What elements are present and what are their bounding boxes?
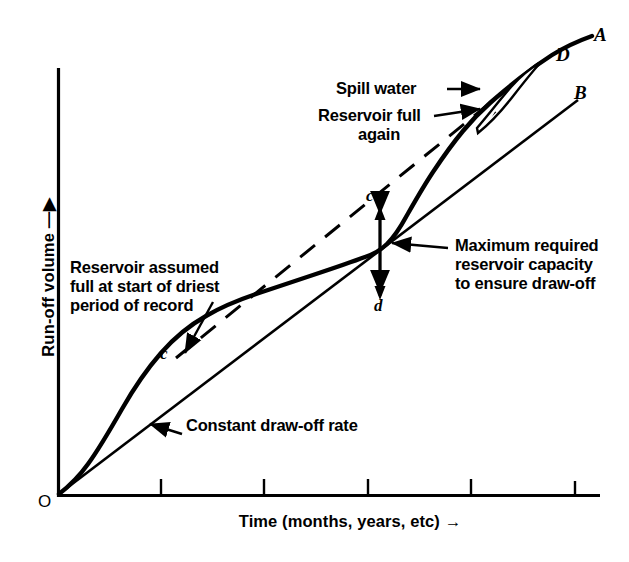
annotation-reservoir-full-again-line2: again: [318, 125, 440, 144]
y-axis-title: Run-off volume —▶: [39, 168, 58, 388]
annotation-max-capacity: Maximum required reservoir capacity to e…: [455, 236, 599, 292]
annotation-reservoir-full-again: Reservoir full again: [318, 106, 440, 144]
annotation-max-capacity-line2: reservoir capacity: [455, 255, 599, 274]
annotation-reservoir-assumed-line3: period of record: [70, 296, 219, 315]
curve-label-c-upper: c: [366, 186, 374, 206]
annotation-reservoir-assumed-full: Reservoir assumed full at start of dries…: [70, 258, 219, 314]
reservoir-full-leader: [434, 109, 480, 116]
mass-curve-figure: Run-off volume —▶ Time (months, years, e…: [0, 0, 629, 562]
annotation-reservoir-assumed-line2: full at start of driest: [70, 277, 219, 296]
x-axis-title: Time (months, years, etc) →: [150, 512, 550, 531]
annotation-reservoir-assumed-line1: Reservoir assumed: [70, 258, 219, 277]
origin-label: O: [38, 492, 51, 512]
curve-label-c-lower: c: [160, 344, 168, 364]
x-axis-ticks: [161, 479, 575, 495]
max-capacity-leader: [392, 243, 448, 248]
constant-draw-off-leader: [150, 424, 182, 434]
curve-label-d-lower: d: [374, 296, 383, 316]
annotation-constant-draw-off-rate: Constant draw-off rate: [186, 416, 358, 434]
annotation-max-capacity-line3: to ensure draw-off: [455, 274, 599, 293]
curve-label-b: B: [574, 82, 587, 104]
annotation-spill-water: Spill water: [336, 79, 416, 97]
annotation-reservoir-full-again-line1: Reservoir full: [318, 106, 440, 125]
curve-label-d: D: [556, 44, 570, 66]
curve-label-a: A: [594, 24, 607, 46]
annotation-max-capacity-line1: Maximum required: [455, 236, 599, 255]
